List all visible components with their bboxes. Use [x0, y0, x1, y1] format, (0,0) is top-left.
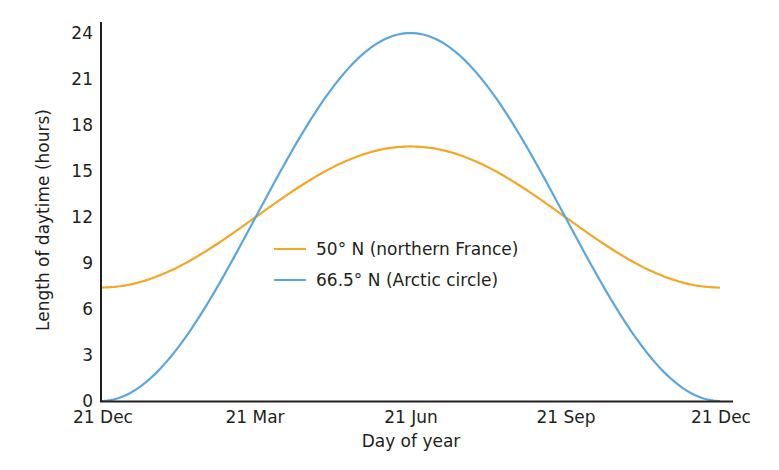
- x-axis-title: Day of year: [362, 431, 461, 451]
- x-tick-label: 21 Jun: [384, 407, 438, 427]
- daylight-chart: Length of daytime (hours) 0 3 6 9 12 15 …: [0, 0, 779, 470]
- y-tick-label: 18: [71, 115, 93, 135]
- y-tick-label: 3: [82, 345, 93, 365]
- series-line-66-5n: [101, 33, 720, 401]
- y-tick-labels: 0 3 6 9 12 15 18 21 24: [71, 23, 93, 411]
- y-tick-label: 6: [82, 299, 93, 319]
- series-line-50n: [101, 146, 720, 287]
- x-tick-label: 21 Mar: [225, 407, 284, 427]
- y-tick-label: 9: [82, 253, 93, 273]
- legend-label-66-5n: 66.5° N (Arctic circle): [316, 270, 498, 290]
- y-tick-label: 12: [71, 207, 93, 227]
- x-tick-label: 21 Dec: [691, 407, 751, 427]
- y-tick-label: 21: [71, 69, 93, 89]
- y-tick-label: 15: [71, 161, 93, 181]
- x-tick-labels: 21 Dec 21 Mar 21 Jun 21 Sep 21 Dec: [73, 407, 751, 427]
- legend: 50° N (northern France) 66.5° N (Arctic …: [274, 239, 518, 290]
- y-tick-label: 24: [71, 23, 93, 43]
- x-tick-label: 21 Sep: [536, 407, 595, 427]
- legend-label-50n: 50° N (northern France): [316, 239, 518, 259]
- y-axis-title: Length of daytime (hours): [33, 109, 53, 331]
- x-tick-label: 21 Dec: [73, 407, 133, 427]
